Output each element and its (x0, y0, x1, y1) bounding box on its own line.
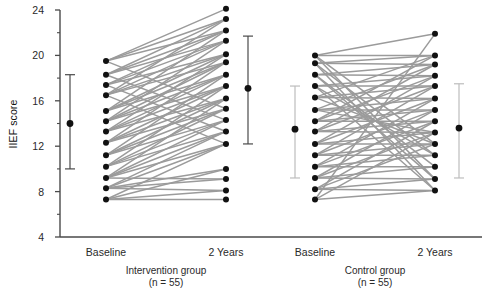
data-point (103, 92, 109, 98)
data-point (432, 31, 438, 37)
data-point (432, 96, 438, 102)
data-point (432, 107, 438, 113)
data-point (432, 152, 438, 158)
data-point (103, 118, 109, 124)
group-caption-control-name: Control group (345, 265, 406, 276)
pair-connector (315, 63, 435, 64)
data-point (223, 128, 229, 134)
data-point (312, 128, 318, 134)
data-point (432, 73, 438, 79)
data-point (103, 82, 109, 88)
x-label-control-baseline: Baseline (275, 246, 355, 258)
data-point (103, 72, 109, 78)
x-label-intervention-baseline: Baseline (66, 246, 146, 258)
mean-marker (456, 125, 463, 132)
data-point (312, 175, 318, 181)
data-point (312, 107, 318, 113)
data-point (432, 164, 438, 170)
mean-marker (67, 120, 74, 127)
data-point (223, 38, 229, 44)
chart-figure: IIEF score 24 20 16 12 8 4 Baseline 2 Ye… (0, 0, 486, 292)
data-point (223, 59, 229, 65)
data-point (432, 176, 438, 182)
data-point (103, 152, 109, 158)
data-point (432, 141, 438, 147)
data-point (432, 130, 438, 136)
mean-marker (245, 85, 252, 92)
data-point (312, 197, 318, 203)
data-point (312, 186, 318, 192)
data-point (432, 187, 438, 193)
group-caption-control-n: (n = 55) (358, 277, 393, 288)
data-point (312, 83, 318, 89)
x-label-control-2years: 2 Years (395, 246, 475, 258)
data-point (312, 94, 318, 100)
pair-connector (106, 188, 226, 190)
data-point (103, 140, 109, 146)
data-point (223, 187, 229, 193)
x-label-intervention-2years: 2 Years (186, 246, 266, 258)
data-point (103, 175, 109, 181)
data-point (103, 197, 109, 203)
group-caption-intervention: Intervention group (n = 55) (86, 265, 246, 289)
data-point (312, 72, 318, 78)
data-point (432, 118, 438, 124)
pair-connector (315, 179, 435, 189)
data-point (223, 6, 229, 12)
mean-marker (292, 126, 299, 133)
data-point (223, 117, 229, 123)
data-point (103, 108, 109, 114)
group-caption-intervention-n: (n = 55) (149, 277, 184, 288)
data-point (223, 166, 229, 172)
data-point (223, 96, 229, 102)
data-point (103, 185, 109, 191)
data-point (312, 152, 318, 158)
data-point (223, 106, 229, 112)
data-point (223, 16, 229, 22)
data-point (223, 83, 229, 89)
data-point (312, 60, 318, 66)
data-point (223, 197, 229, 203)
data-point (312, 141, 318, 147)
data-point (312, 164, 318, 170)
connector-lines (106, 9, 435, 200)
data-point (312, 118, 318, 124)
data-point (312, 52, 318, 58)
pair-connector (315, 34, 435, 56)
group-caption-intervention-name: Intervention group (126, 265, 207, 276)
data-point (223, 141, 229, 147)
data-point (432, 52, 438, 58)
pair-connector (106, 19, 226, 61)
data-point (223, 51, 229, 57)
data-point (223, 72, 229, 78)
data-point (103, 128, 109, 134)
data-point (223, 27, 229, 33)
data-point (103, 164, 109, 170)
data-point (103, 58, 109, 64)
group-caption-control: Control group (n = 55) (295, 265, 455, 289)
data-point (432, 83, 438, 89)
data-point (432, 61, 438, 67)
data-point (223, 176, 229, 182)
pair-connector (315, 190, 435, 199)
